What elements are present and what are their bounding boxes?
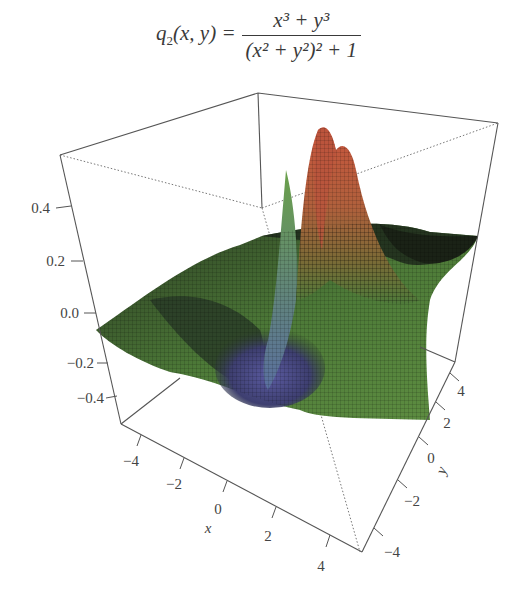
x-tick-4: 4 [317, 558, 325, 574]
z-tick-neg0.4: −0.4 [77, 390, 105, 406]
y-tick-2: 2 [443, 415, 451, 431]
x-axis-label: x [204, 520, 212, 536]
x-tick-2: 2 [264, 528, 272, 544]
y-tick-neg2: −2 [404, 493, 420, 509]
y-tick-neg4: −4 [384, 544, 400, 560]
surface-plot: 0.4 0.2 0.0 −0.2 −0.4 −4 −2 0 2 4 x −4 −… [0, 0, 517, 594]
x-tick-neg2: −2 [166, 476, 182, 492]
surface [96, 127, 478, 420]
y-tick-4: 4 [457, 383, 465, 399]
z-tick-0.4: 0.4 [31, 200, 50, 216]
y-tick-0: 0 [427, 450, 435, 466]
x-tick-neg4: −4 [123, 453, 139, 469]
x-tick-0: 0 [214, 501, 222, 517]
z-tick-neg0.2: −0.2 [67, 355, 94, 371]
z-tick-0.2: 0.2 [46, 253, 65, 269]
y-axis-label: y [432, 464, 450, 478]
z-tick-0.0: 0.0 [60, 305, 79, 321]
